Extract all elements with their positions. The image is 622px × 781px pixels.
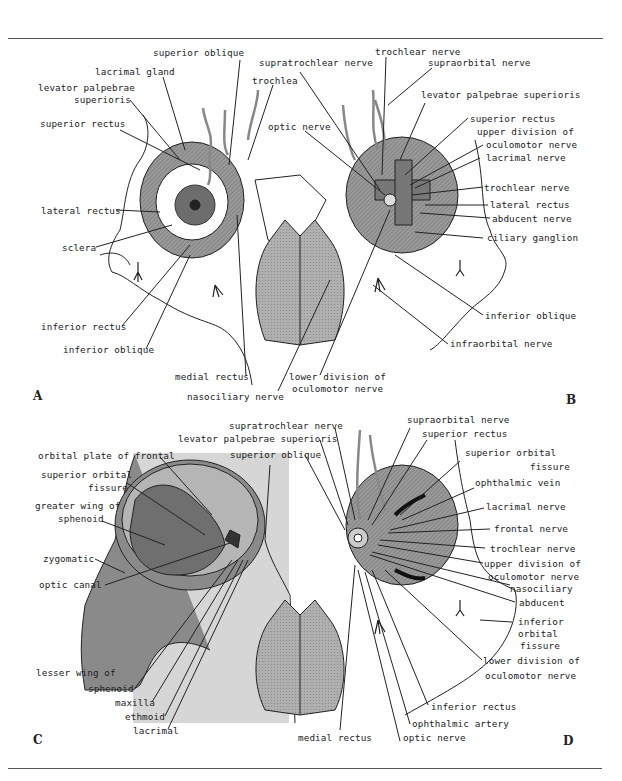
label-a-sclera: sclera (62, 242, 96, 253)
label-d-sof-line1: superior orbital (465, 447, 556, 458)
label-c-lesser-wing-line1: lesser wing of (36, 667, 116, 678)
label-d-ophthalmic-artery: ophthalmic artery (412, 718, 509, 729)
label-c-sof-line1: superior orbital (41, 469, 132, 480)
panel-letter-a: A (33, 389, 42, 403)
label-b-optic-nerve: optic nerve (268, 121, 331, 132)
label-d-trochlear-nerve: trochlear nerve (490, 543, 575, 554)
label-a-levator-line1: levator palpebrae (38, 82, 135, 93)
label-d-supratrochlear-nerve: supratrochlear nerve (229, 420, 343, 431)
label-d-iof-line2: orbital (518, 628, 558, 639)
label-c-lacrimal: lacrimal (133, 725, 179, 736)
label-c-zygomatic: zygomatic (43, 553, 94, 564)
label-c-optic-canal: optic canal (39, 579, 102, 590)
label-d-abducent: abducent (519, 597, 565, 608)
label-b-upper-division-line1: upper division of (477, 126, 574, 137)
label-d-lower-division-line2: oculomotor nerve (485, 670, 576, 681)
label-b-supraorbital-nerve: supraorbital nerve (428, 57, 531, 68)
label-a-trochlea: trochlea (252, 75, 298, 86)
label-d-levator: levator palpebrae superioris (178, 433, 338, 444)
label-d-superior-rectus: superior rectus (422, 428, 507, 439)
label-c-lesser-wing-line2: sphenoid (88, 683, 134, 694)
label-c-sof-line2: fissure (88, 482, 128, 493)
label-d-optic-nerve: optic nerve (403, 732, 466, 743)
label-c-ethmoid: ethmoid (125, 711, 165, 722)
label-a-lateral-rectus: lateral rectus (41, 205, 121, 216)
label-d-upper-division-line1: upper division of (484, 558, 581, 569)
label-d-inferior-rectus: inferior rectus (431, 701, 516, 712)
panel-letter-b: B (566, 393, 576, 407)
label-d-supraorbital-nerve: supraorbital nerve (407, 414, 510, 425)
label-a-superior-rectus: superior rectus (40, 118, 125, 129)
label-d-nasociliary: nasociliary (510, 583, 573, 594)
label-b-trochlear-nerve-top: trochlear nerve (375, 46, 460, 57)
panel-a-art (96, 60, 344, 391)
label-b-trochlear-nerve: trochlear nerve (484, 182, 569, 193)
label-a-inferior-oblique: inferior oblique (63, 344, 154, 355)
label-b-upper-division-line2: oculomotor nerve (486, 139, 577, 150)
label-a-medial-rectus: medial rectus (175, 371, 249, 382)
label-c-greater-wing-line1: greater wing of (35, 500, 120, 511)
label-a-levator-line2: superioris (74, 94, 131, 105)
label-b-inferior-oblique: inferior oblique (485, 310, 576, 321)
label-b-abducent-nerve: abducent nerve (492, 213, 572, 224)
label-b-lower-division-line1: lower division of (289, 371, 386, 382)
label-b-lower-division-line2: oculomotor nerve (292, 383, 383, 394)
label-a-nasociliary-nerve: nasociliary nerve (187, 391, 284, 402)
label-d-medial-rectus: medial rectus (298, 732, 372, 743)
label-b-ciliary-ganglion: ciliary ganglion (487, 232, 578, 243)
label-b-lateral-rectus: lateral rectus (490, 199, 570, 210)
label-c-maxilla: maxilla (115, 697, 155, 708)
label-d-upper-division-line2: oculomotor nerve (488, 571, 579, 582)
label-d-superior-oblique: superior oblique (230, 449, 321, 460)
label-a-lacrimal-gland: lacrimal gland (95, 66, 175, 77)
label-d-iof-line1: inferior (518, 616, 564, 627)
label-b-supratrochlear-nerve: supratrochlear nerve (259, 57, 373, 68)
label-d-iof-line3: fissure (520, 640, 560, 651)
label-b-levator: levator palpebrae superioris (421, 89, 581, 100)
label-c-orbital-plate: orbital plate of frontal (38, 450, 175, 461)
label-b-lacrimal-nerve: lacrimal nerve (486, 152, 566, 163)
label-a-inferior-rectus: inferior rectus (41, 321, 126, 332)
label-a-superior-oblique: superior oblique (153, 47, 244, 58)
label-d-lacrimal-nerve: lacrimal nerve (486, 501, 566, 512)
label-d-sof-line2: fissure (530, 461, 570, 472)
panel-letter-c: C (33, 733, 43, 747)
panel-letter-d: D (563, 734, 573, 748)
label-d-lower-division-line1: lower division of (483, 655, 580, 666)
label-c-greater-wing-line2: sphenoid (58, 513, 104, 524)
label-d-ophthalmic-vein: ophthalmic vein (475, 477, 560, 488)
label-b-infraorbital-nerve: infraorbital nerve (450, 338, 553, 349)
label-b-superior-rectus: superior rectus (470, 113, 555, 124)
label-d-frontal-nerve: frontal nerve (494, 523, 568, 534)
